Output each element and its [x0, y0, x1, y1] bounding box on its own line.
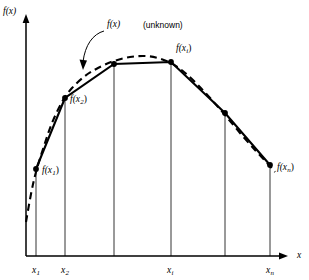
- annotation-leader: [80, 31, 105, 70]
- tick-subscript: i: [171, 269, 173, 277]
- point-label-tail: ): [84, 94, 87, 104]
- leader-arrowhead: [80, 60, 88, 71]
- axes-group: [26, 20, 281, 256]
- point-label-f-x2: f(x2): [70, 95, 87, 106]
- point-label-f-x1: f(x1): [42, 166, 59, 177]
- x-axis-label: x: [297, 251, 301, 261]
- point-label-tail: ): [291, 162, 294, 172]
- unknown-function-label: f(x): [107, 20, 120, 30]
- tick-subscript: 1: [36, 269, 40, 277]
- sample-point-dot-2: [168, 59, 174, 65]
- x-axis-arrowhead: [279, 253, 288, 260]
- axis-arrowheads: [23, 14, 288, 259]
- point-label-head: f(x: [277, 162, 287, 172]
- tick-subscript: n: [270, 269, 274, 277]
- point-label-f-xi: f(xi): [176, 44, 191, 55]
- interpolant-vertex-dot-0: [111, 61, 117, 67]
- x-tick-label-3: xi: [167, 266, 173, 277]
- point-label-tail: ): [56, 165, 59, 175]
- y-axis-arrowhead: [23, 14, 30, 23]
- sample-point-dot-3: [267, 162, 273, 168]
- x-tick-label-1: x1: [32, 266, 40, 277]
- piecewise-linear-interpolant: [36, 62, 270, 169]
- interpolant-vertex-dot-1: [222, 110, 228, 116]
- figure-piecewise-linear-approximation: f(x) x f(x) (unknown) x1x2xixn f(x1)f(x2…: [0, 0, 309, 280]
- unknown-qualifier-label: (unknown): [143, 21, 183, 30]
- y-axis-label: f(x): [3, 7, 16, 17]
- tick-subscript: 2: [65, 269, 69, 277]
- diagram-canvas: [0, 0, 309, 280]
- point-label-head: f(x: [70, 94, 80, 104]
- point-label-head: f(x: [176, 43, 186, 53]
- sample-point-dot-1: [62, 95, 68, 101]
- point-label-tail: ): [188, 43, 191, 53]
- leader-line: [83, 31, 104, 62]
- x-tick-label-2: x2: [61, 266, 69, 277]
- unknown-function-curve: [26, 56, 275, 222]
- x-tick-label-4: xn: [266, 266, 274, 277]
- point-label-head: f(x: [42, 165, 52, 175]
- point-label-f-xn: f(xn): [277, 163, 294, 174]
- sample-point-markers: [33, 59, 273, 172]
- sample-point-dot-0: [33, 166, 39, 172]
